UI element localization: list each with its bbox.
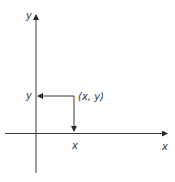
x-axis-label: x — [161, 141, 168, 152]
x-projection-label: x — [71, 140, 78, 151]
coordinate-diagram: y y (x, y) x x — [0, 0, 175, 182]
y-axis-label: y — [25, 10, 33, 21]
y-projection-label: y — [25, 90, 33, 101]
point-label: (x, y) — [78, 91, 104, 102]
